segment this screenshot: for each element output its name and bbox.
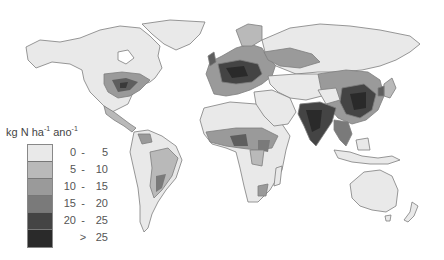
legend-swatches [27,144,53,248]
legend-unit-mid: ano [50,126,71,138]
legend-swatch-4 [28,213,52,230]
scandinavia [236,24,262,46]
legend-unit-exp2: -1 [72,125,78,132]
japan [384,78,396,98]
legend-swatch-5 [28,230,52,247]
new-zealand [404,202,418,222]
legend-label-3: 15-20 [56,195,108,212]
legend-label-1: 5-10 [56,161,108,178]
tasmania [385,215,391,221]
australia [350,170,398,212]
legend-title: kg N ha-1 ano-1 [6,125,78,138]
north-america [26,26,162,112]
legend-labels: 0-5 5-10 10-15 15-20 20-25 >25 [56,144,108,246]
legend-swatch-1 [28,162,52,179]
legend-label-2: 10-15 [56,178,108,195]
legend-swatch-0 [28,145,52,162]
indonesia [334,150,400,164]
legend-swatch-3 [28,196,52,213]
legend-label-4: 20-25 [56,212,108,229]
central-america [104,106,136,132]
legend-swatch-2 [28,179,52,196]
legend-label-0: 0-5 [56,144,108,161]
legend-unit: kg N ha [6,126,44,138]
southeast-asia [334,120,352,146]
legend-label-5: >25 [56,229,108,246]
